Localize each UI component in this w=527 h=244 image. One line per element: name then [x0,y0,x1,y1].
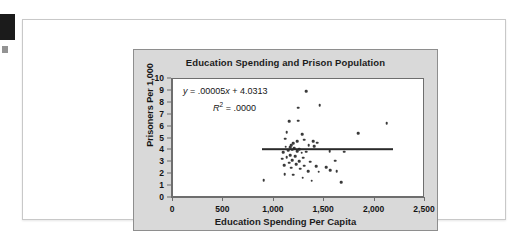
scatter-point [316,141,319,144]
scatter-point [303,165,306,168]
scatter-point [307,170,310,173]
x-tick-label: 2,500 [413,204,434,214]
x-tick-label: 500 [215,204,229,214]
scatter-point [291,159,294,162]
r-squared-annotation: R2 = .0000 [213,101,256,113]
scatter-point [301,133,304,136]
x-tick-label: 2,000 [363,204,384,214]
r-squared-value: = .0000 [223,103,256,113]
scatter-point [299,168,302,171]
equation-tail: + 4.0313 [230,86,268,96]
y-tick-label: 3 [159,156,164,166]
equation-rest: = .00005 [188,86,226,96]
scatter-point [296,150,299,153]
y-tick-label: 2 [159,168,164,178]
scatter-point [309,160,312,163]
scatter-point [310,179,313,182]
scatter-point [283,164,286,167]
scatter-point [298,160,301,163]
chart-panel: Education Spending and Prison Population… [133,49,438,231]
page-bleed-tab-icon [0,14,15,40]
x-tick-mark [323,197,324,201]
x-tick-mark [273,197,274,201]
regression-equation-annotation: y = .00005x + 4.0313 [183,86,268,96]
scatter-point [288,120,291,123]
x-tick-mark [424,197,425,201]
scatter-point [325,166,328,169]
y-tick-label: 9 [159,85,164,95]
scatter-point [296,140,299,143]
scatter-point [315,165,318,168]
scatter-point [297,119,300,122]
scatter-point [301,176,304,179]
y-tick-label: 6 [159,121,164,131]
figure-outer-frame: Education Spending and Prison Population… [22,19,506,220]
scatter-point [385,122,388,125]
x-tick-label: 1,000 [262,204,283,214]
y-tick-label: 4 [159,144,164,154]
x-tick-mark [222,197,223,201]
scatter-point [295,163,298,166]
regression-trend-line [262,148,393,150]
figure-page: Education Spending and Prison Population… [0,0,527,244]
scatter-point [284,137,287,140]
scatter-point [286,156,289,159]
x-axis-line [171,197,425,198]
scatter-point [318,104,321,107]
scatter-point [305,90,308,93]
y-tick-label: 8 [159,97,164,107]
y-tick-label: 7 [159,109,164,119]
scatter-point [312,140,315,143]
scatter-point [305,150,308,153]
scatter-point [302,156,305,159]
scatter-point [284,173,287,176]
scatter-point [294,155,297,158]
scatter-point [329,169,332,172]
y-tick-label: 10 [155,73,164,83]
scatter-point [334,159,337,162]
scatter-point [282,151,285,154]
scatter-point [289,154,292,157]
scatter-point [297,106,300,109]
x-axis-title: Education Spending Per Capita [134,216,437,227]
scatter-point [303,138,306,141]
x-tick-label: 1,500 [313,204,334,214]
scatter-point [288,162,291,165]
x-tick-mark [374,197,375,201]
chart-title: Education Spending and Prison Population [134,57,437,68]
scatter-point [343,150,346,153]
page-margin-mark-icon [2,46,8,53]
scatter-point [286,131,289,134]
scatter-point [292,173,295,176]
plot-area: y = .00005x + 4.0313 R2 = .0000 [172,78,424,197]
scatter-point [340,181,343,184]
x-tick-label: 0 [170,204,175,214]
scatter-point [262,179,265,182]
scatter-point [357,132,360,135]
x-tick-mark [172,197,173,201]
y-axis-tick-labels: 012345678910 [134,50,171,200]
scatter-point [317,171,320,174]
scatter-point [336,170,339,173]
scatter-point [300,151,303,154]
scatter-point [313,145,316,148]
scatter-point [290,166,293,169]
scatter-point [307,144,310,147]
y-tick-label: 0 [159,192,164,202]
y-tick-label: 5 [159,133,164,143]
scatter-point [328,150,331,153]
y-tick-label: 1 [159,180,164,190]
scatter-point [281,157,284,160]
plot-inner: y = .00005x + 4.0313 R2 = .0000 [173,79,423,196]
